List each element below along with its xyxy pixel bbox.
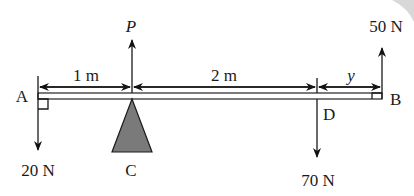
label-point-c: C — [125, 161, 136, 180]
label-dimension-db: y — [345, 66, 355, 85]
beam — [38, 93, 382, 99]
label-force-50n: 50 N — [369, 17, 403, 36]
right-angle-mark-a — [38, 99, 48, 109]
label-point-a: A — [16, 87, 29, 106]
label-dimension-cd: 2 m — [211, 66, 237, 85]
label-force-20n: 20 N — [21, 161, 55, 180]
beam-force-diagram: P 1 m 2 m y 50 N A B D C 20 N 70 N — [0, 0, 414, 196]
pivot-support-triangle-icon — [112, 99, 152, 152]
label-dimension-ac: 1 m — [73, 66, 99, 85]
label-force-p: P — [125, 17, 136, 36]
label-point-b: B — [390, 90, 401, 109]
label-point-d: D — [323, 105, 335, 124]
label-force-70n: 70 N — [301, 171, 335, 190]
